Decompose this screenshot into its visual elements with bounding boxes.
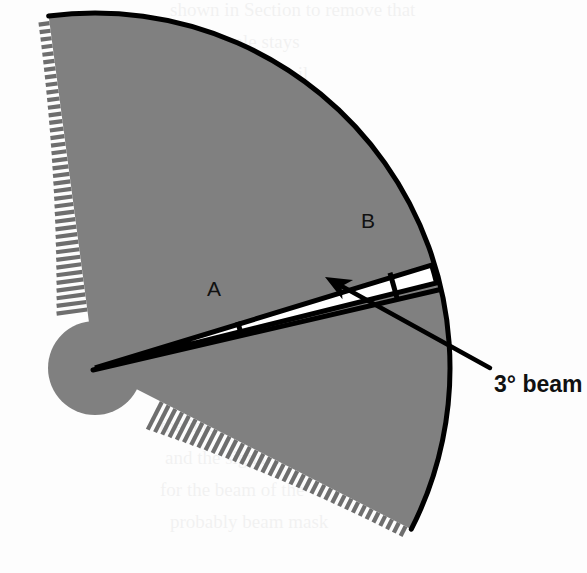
hatch-tick: [53, 174, 69, 176]
hatch-tick: [325, 488, 331, 499]
hatch-tick: [39, 23, 50, 24]
figure-container: shown in Section to remove that the samp…: [0, 0, 587, 573]
hatch-tick: [332, 492, 338, 503]
label-beam-callout: 3° beam: [494, 371, 582, 397]
hatch-tick: [353, 502, 358, 512]
hatch-tick: [54, 196, 72, 198]
hatch-tick: [346, 499, 351, 510]
hatch-tick: [52, 151, 67, 153]
hatch-tick: [50, 129, 64, 131]
hatch-tick: [367, 509, 372, 519]
hatch-tick: [44, 68, 55, 70]
hatch-tick: [56, 242, 78, 245]
hatch-tick: [41, 38, 52, 39]
hatch-tick: [55, 227, 76, 230]
hatch-tick: [48, 106, 61, 108]
hatch-tick: [50, 136, 64, 138]
hatch-tick: [57, 279, 84, 283]
bleed-line: probably beam mask: [170, 511, 329, 532]
hatch-tick: [49, 114, 62, 116]
hatch-tick: [373, 512, 378, 522]
hatch-tick: [56, 272, 82, 275]
hatch-tick: [57, 287, 85, 291]
hatch-tick: [56, 264, 81, 267]
hatch-tick: [57, 310, 88, 314]
hatch-tick: [53, 181, 70, 183]
hatch-tick: [53, 166, 69, 168]
hatch-tick: [49, 121, 62, 123]
hatch-tick: [46, 91, 58, 93]
hatch-tick: [304, 478, 310, 491]
hatch-tick: [40, 31, 51, 32]
hatch-tick: [339, 495, 345, 506]
hatch-tick: [51, 144, 65, 146]
hatch-tick: [56, 249, 79, 252]
label-point-b: B: [361, 209, 375, 232]
hatch-tick: [55, 204, 74, 206]
hatch-tick: [47, 99, 59, 101]
hatch-tick: [55, 212, 75, 215]
tick-mark-a: [238, 322, 241, 334]
hatch-tick: [401, 526, 406, 536]
hatch-tick: [42, 46, 53, 47]
hatch-tick: [57, 294, 86, 298]
bleed-line: shown in Section to remove that: [170, 0, 416, 20]
hatch-tick: [43, 61, 54, 62]
hatch-tick: [55, 219, 75, 222]
hatch-tick: [56, 257, 80, 260]
hatch-tick: [45, 76, 57, 78]
hatch-tick: [394, 523, 399, 533]
hatch-tick: [360, 506, 365, 516]
bleed-line: for the beam of the: [160, 479, 305, 500]
sector-beam-diagram: shown in Section to remove that the samp…: [0, 0, 587, 573]
hatch-tick: [57, 302, 87, 306]
hatch-tick: [318, 485, 324, 497]
hatch-tick: [380, 516, 385, 526]
hatch-tick: [56, 234, 78, 237]
hatch-tick: [42, 53, 53, 54]
hatch-tick: [46, 83, 58, 85]
hatch-tick: [54, 189, 72, 191]
hatch-tick: [52, 159, 67, 161]
label-point-a: A: [207, 277, 221, 300]
hatch-tick: [387, 519, 392, 529]
hatch-tick: [311, 481, 317, 493]
